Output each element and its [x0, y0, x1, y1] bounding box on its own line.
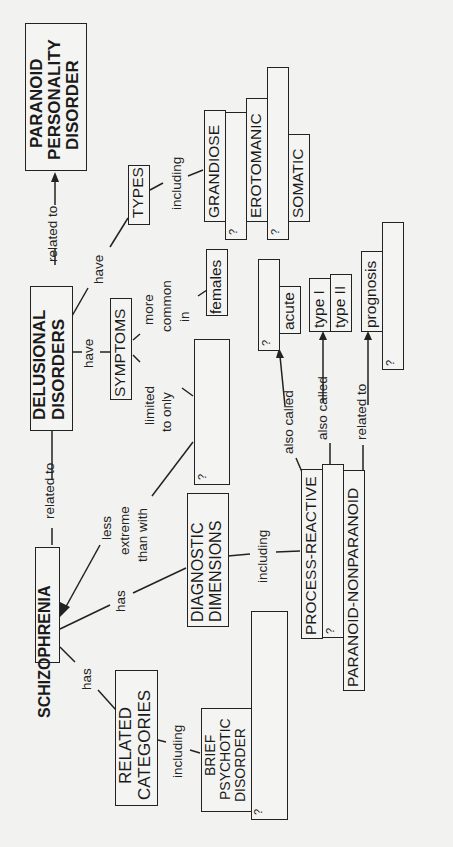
blank-question-5: ? [261, 340, 272, 346]
process-reactive-label: PROCESS-REACTIVE [303, 477, 319, 635]
link-label-less: less [100, 516, 114, 540]
link-label-also-called-2: also called [316, 376, 330, 440]
diagnostic-line1: DIAGNOSTIC [190, 522, 206, 622]
link-label-common: common [160, 280, 174, 332]
node-process-reactive-blank [322, 464, 344, 638]
blank-question-6: ? [385, 360, 396, 366]
delusional-line2: DISORDERS [50, 319, 67, 420]
link-label-including-types: including [170, 157, 184, 210]
types-label: TYPES [130, 167, 146, 218]
link-label-extreme: extreme [118, 506, 132, 555]
females-label: females [208, 260, 224, 314]
link-label-also-called-1: also called [282, 390, 296, 454]
blank-question-7: ? [253, 809, 264, 815]
node-symptom-blank [194, 339, 230, 485]
node-brief-blank [251, 611, 288, 820]
prognosis-label: prognosis [363, 261, 379, 328]
link-label-including-dimensions: including [256, 530, 270, 583]
acute-label: acute [281, 292, 297, 330]
link-label-has-related: has [80, 668, 94, 690]
blank-question-3: ? [197, 474, 208, 480]
paranoid-nonparanoid-label: PARANOID-NONPARANOID [345, 488, 361, 687]
link-label-have-symptoms: have [82, 339, 96, 368]
link-label-has-diagnostic: has [114, 590, 128, 612]
link-label-related-to-1: related to [43, 463, 57, 519]
brief-line2: PSYCHOTIC [218, 718, 232, 800]
node-grandiose-blank [225, 112, 247, 240]
brief-line1: BRIEF [203, 735, 217, 776]
type-1-label: type I [311, 290, 327, 328]
erotomanic-label: EROTOMANIC [248, 113, 264, 218]
link-label-in: in [178, 311, 192, 322]
grandiose-label: GRANDIOSE [206, 125, 222, 218]
brief-line3: DISORDER [233, 728, 247, 802]
diagnostic-line2: DIMENSIONS [208, 521, 224, 622]
node-prognosis-blank [382, 222, 404, 370]
related-categories-line1: RELATED [117, 707, 134, 784]
link-label-related-to-3: related to [355, 384, 369, 440]
link-label-more: more [142, 294, 156, 325]
related-categories-line2: CATEGORIES [136, 690, 153, 800]
blank-question-1: ? [228, 229, 239, 235]
link-label-have-types: have [92, 255, 106, 284]
node-acute-blank [258, 259, 280, 351]
link-label-limited: limited [143, 386, 157, 425]
link-label-than-with: than with [136, 508, 150, 562]
paranoid-personality-line2: PERSONALITY [46, 39, 63, 160]
link-label-to-only: to only [160, 392, 174, 432]
link-label-including-categories: including [171, 725, 185, 778]
schizophrenia-label: SCHIZOPHRENIA [37, 586, 53, 718]
concept-map: PARANOID PERSONALITY DISORDER related to… [0, 0, 453, 847]
somatic-label: SOMATIC [290, 149, 306, 218]
blank-question-4: ? [325, 628, 336, 634]
type-2-label: type II [332, 286, 348, 328]
symptoms-label: SYMPTOMS [112, 309, 128, 397]
node-erotomanic-blank [267, 67, 289, 240]
link-label-related-to-2: related to [46, 206, 60, 262]
blank-question-2: ? [270, 229, 281, 235]
delusional-line1: DELUSIONAL [31, 310, 48, 421]
paranoid-personality-line1: PARANOID [28, 59, 45, 148]
paranoid-personality-line3: DISORDER [64, 60, 81, 150]
